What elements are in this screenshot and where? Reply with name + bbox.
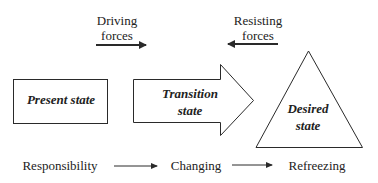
resisting-line2: forces xyxy=(228,28,288,43)
desired-line2: state xyxy=(278,117,338,134)
transition-line1: Transition xyxy=(150,85,230,102)
driving-line1: Driving xyxy=(92,13,142,28)
transition-state-label: Transition state xyxy=(150,85,230,119)
resisting-forces-label: Resisting forces xyxy=(228,13,288,43)
process-step-responsibility: Responsibility xyxy=(20,158,100,173)
driving-forces-label: Driving forces xyxy=(92,13,142,43)
resisting-line1: Resisting xyxy=(228,13,288,28)
driving-line2: forces xyxy=(92,28,142,43)
process-step-changing: Changing xyxy=(164,158,228,173)
desired-state-label: Desired state xyxy=(278,100,338,134)
transition-line2: state xyxy=(150,102,230,119)
process-step-refreezing: Refreezing xyxy=(282,158,352,173)
desired-line1: Desired xyxy=(278,100,338,117)
present-state-label: Present state xyxy=(14,91,108,108)
